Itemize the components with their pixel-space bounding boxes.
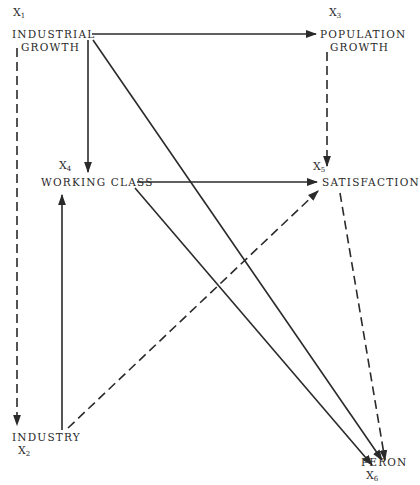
edge-x4-x6 — [135, 188, 372, 465]
node-x4-var: X4 — [59, 160, 71, 173]
node-x2-label: INDUSTRY — [12, 432, 81, 443]
edge-x1-x6 — [93, 40, 382, 460]
node-x1-label: INDUSTRIAL — [12, 29, 95, 40]
edge-x2-x5 — [68, 191, 318, 428]
node-x1-label-2: GROWTH — [21, 42, 80, 53]
node-x6-var: X6 — [366, 470, 378, 483]
node-x5-label: SATISFACTION — [322, 177, 420, 188]
node-x4-label: WORKING CLASS — [41, 177, 154, 188]
node-x3-label: POPULATION — [320, 29, 406, 40]
edge-x5-x6 — [340, 193, 385, 460]
node-x3-var: X3 — [329, 7, 341, 20]
node-x5-var: X5 — [313, 161, 325, 174]
node-x3-label-2: GROWTH — [330, 42, 389, 53]
node-x6-label: PERON — [361, 457, 407, 468]
node-x2-var: X2 — [18, 445, 30, 458]
node-x1-var: X1 — [13, 7, 25, 20]
